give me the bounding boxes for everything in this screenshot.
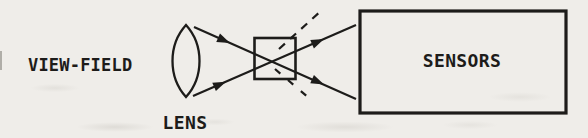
beam-splitter-box [255, 38, 296, 79]
arrowhead-icon [310, 75, 326, 89]
view-field-label: VIEW-FIELD [28, 55, 132, 75]
lens-shape [173, 25, 200, 97]
arrowhead-icon [310, 35, 326, 49]
dashed-ray-lower [275, 69, 309, 98]
diagram-svg: VIEW-FIELD LENS SENSORS [0, 0, 588, 138]
sensors-label: SENSORS [423, 50, 502, 71]
arrowhead-icon [216, 34, 232, 48]
diagram-canvas: VIEW-FIELD LENS SENSORS [0, 0, 588, 138]
scan-artifact [0, 51, 2, 70]
lens-label: LENS [163, 112, 208, 133]
arrowhead-icon [212, 77, 228, 91]
